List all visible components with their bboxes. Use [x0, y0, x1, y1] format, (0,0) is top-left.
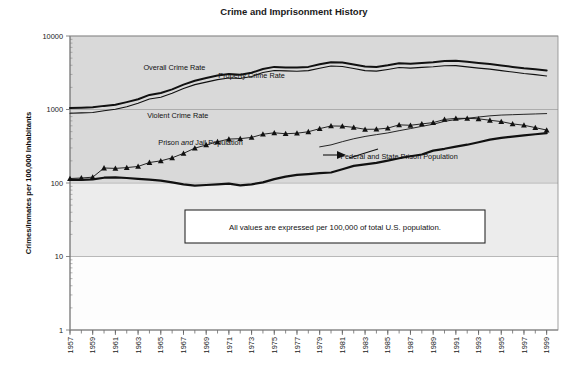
y-tick-label: 1000 — [47, 105, 63, 114]
x-tick-label: 1987 — [406, 337, 415, 353]
y-axis-title: Crimes/Inmates per 100,000 Inhabitants — [24, 112, 33, 255]
x-tick-label: 1981 — [338, 337, 347, 353]
x-tick-label: 1993 — [474, 337, 483, 353]
y-tick-label: 10000 — [42, 32, 63, 41]
x-tick-label: 1971 — [225, 337, 234, 353]
y-tick-label: 1 — [59, 326, 63, 335]
x-tick-label: 1979 — [315, 337, 324, 353]
x-tick-label: 1985 — [383, 337, 392, 353]
x-tick-label: 1961 — [111, 337, 120, 353]
y-tick-label: 10 — [55, 252, 63, 261]
x-tick-label: 1991 — [452, 337, 461, 353]
x-tick-label: 1965 — [156, 337, 165, 353]
note-box-text: All values are expressed per 100,000 of … — [229, 223, 441, 232]
x-tick-label: 1973 — [247, 337, 256, 353]
x-tick-label: 1967 — [179, 337, 188, 353]
plot-background-upper — [70, 36, 558, 182]
x-tick-label: 1997 — [520, 337, 529, 353]
series-label-overall-crime-rate: Overall Crime Rate — [143, 63, 205, 72]
x-tick-label: 1963 — [134, 337, 143, 353]
note-box: All values are expressed per 100,000 of … — [185, 210, 485, 243]
crime-imprisonment-chart: Crime and Imprisonment History Crimes/In… — [0, 0, 588, 376]
x-tick-label: 1983 — [361, 337, 370, 353]
x-tick-label: 1975 — [270, 337, 279, 353]
x-tick-label: 1959 — [88, 337, 97, 353]
x-tick-label: 1999 — [542, 337, 551, 353]
plot-background-lower — [70, 256, 558, 330]
series-label-violent-crime-rate: Violent Crime Rate — [147, 111, 208, 120]
y-tick-label: 100 — [51, 179, 63, 188]
series-label-prison-and-jail-population: Prison and Jail Population — [158, 138, 242, 147]
series-label-property-crime-rate: Property Crime Rate — [218, 71, 285, 80]
x-tick-label: 1969 — [202, 337, 211, 353]
x-tick-label: 1989 — [429, 337, 438, 353]
series-label-federal-and-state-prison-population: Federal and State Prison Population — [340, 152, 457, 161]
x-tick-label: 1957 — [66, 337, 75, 353]
x-tick-label: 1977 — [293, 337, 302, 353]
page-title: Crime and Imprisonment History — [220, 6, 368, 17]
x-tick-label: 1995 — [497, 337, 506, 353]
